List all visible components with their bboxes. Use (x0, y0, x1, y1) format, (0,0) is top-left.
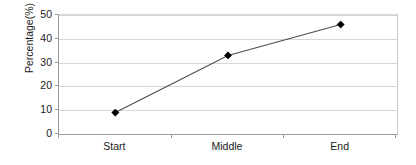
x-axis-tick-label: Start (103, 140, 125, 152)
y-axis-tick-label: 0 (26, 128, 52, 139)
series-line (115, 25, 340, 113)
x-axis-tick-mark (58, 134, 59, 138)
x-axis-tick-label: End (330, 140, 349, 152)
x-axis-tick-mark (395, 134, 396, 138)
y-axis-tick-label: 30 (26, 56, 52, 67)
x-axis-tick-labels: StartMiddleEnd (58, 140, 396, 156)
y-axis-tick-labels: 01020304050 (26, 0, 52, 165)
line-chart: Percentage(%) 01020304050 StartMiddleEnd (0, 0, 416, 165)
y-axis-tick-label: 10 (26, 104, 52, 115)
data-point-marker (112, 109, 119, 116)
x-axis-tick-mark (171, 134, 172, 138)
data-point-marker (224, 52, 231, 59)
y-axis-tick-label: 40 (26, 33, 52, 44)
y-axis-tick-label: 50 (26, 9, 52, 20)
series-overlay (59, 15, 397, 134)
plot-area (58, 14, 398, 135)
x-axis-tick-marks (58, 134, 396, 139)
x-axis-tick-mark (283, 134, 284, 138)
x-axis-tick-label: Middle (212, 140, 243, 152)
y-axis-tick-label: 20 (26, 80, 52, 91)
data-point-marker (337, 21, 344, 28)
